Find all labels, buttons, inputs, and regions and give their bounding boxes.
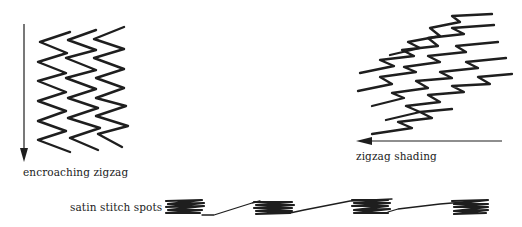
shading-row-5 <box>386 74 512 120</box>
satin-connector-1 <box>202 201 260 215</box>
zigzag-shading-figure <box>356 14 512 145</box>
down-arrow-head <box>20 148 28 162</box>
encroaching-zigzag-figure <box>20 24 128 162</box>
zigzag-column-1 <box>38 32 70 152</box>
encroaching-zigzag-label: encroaching zigzag <box>23 166 128 178</box>
satin-stitch-figure <box>166 199 488 215</box>
zigzag-shading-label: zigzag shading <box>356 150 437 162</box>
satin-stitch-spots-label: satin stitch spots <box>70 201 162 213</box>
satin-spot-2 <box>254 202 294 214</box>
zigzag-column-2 <box>66 30 100 150</box>
stitch-diagram <box>0 0 522 227</box>
satin-spot-1 <box>166 200 204 213</box>
satin-spot-3 <box>352 200 390 213</box>
left-arrow-head <box>356 137 372 145</box>
